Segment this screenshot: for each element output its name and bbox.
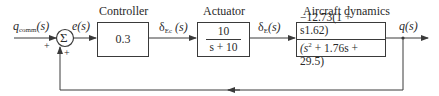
delta-ec-arg: (s) [172, 20, 188, 34]
controller-gain: 0.3 [116, 32, 131, 47]
actuator-title: Actuator [203, 5, 245, 17]
actuator-output-label: δE(s) [258, 21, 281, 35]
delta-e-arg: (s) [268, 20, 281, 34]
aircraft-numerator: −12.73(1 + s1.62) [297, 11, 385, 38]
controller-block: 0.3 [97, 22, 149, 57]
actuator-transfer-function: 10 s + 10 [206, 25, 240, 54]
actuator-numerator: 10 [215, 25, 233, 39]
plus-sign-input: + [44, 41, 50, 51]
aircraft-denominator: (s2 + 1.76s + 29.5) [297, 40, 385, 68]
controller-output-label: δEc (s) [159, 21, 188, 35]
delta-ec-subscript: Ec [165, 27, 172, 35]
plus-sign-feedback: + [64, 48, 70, 58]
input-subscript: comm [19, 26, 37, 34]
actuator-denominator: s + 10 [206, 40, 240, 54]
actuator-block: 10 s + 10 [197, 22, 250, 57]
output-label: q(s) [399, 20, 418, 32]
input-arg: (s) [37, 19, 50, 33]
error-label: e(s) [72, 20, 90, 32]
input-label: qcomm(s) [13, 20, 49, 34]
controller-title: Controller [99, 5, 148, 17]
aircraft-block: −12.73(1 + s1.62) (s2 + 1.76s + 29.5) [296, 22, 386, 57]
aircraft-transfer-function: −12.73(1 + s1.62) (s2 + 1.76s + 29.5) [297, 11, 385, 68]
sigma-glyph: Σ [60, 31, 68, 44]
